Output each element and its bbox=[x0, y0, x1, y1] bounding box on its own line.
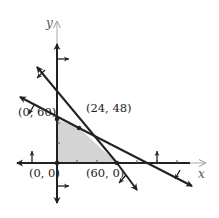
y-axis-label: y bbox=[45, 16, 53, 30]
label-x-intercept: (60, 0) bbox=[86, 166, 124, 180]
label-origin: (0, 0) bbox=[29, 166, 60, 180]
x-axis-label: x bbox=[198, 167, 205, 181]
label-intersection: (24, 48) bbox=[86, 101, 132, 115]
vertex-origin bbox=[55, 161, 60, 166]
vertex-x-intercept bbox=[115, 161, 120, 166]
feasible-region-diagram: y x (0, 60) (24, 48) (0, 0) (60, 0) bbox=[0, 0, 219, 218]
label-y-intercept: (0, 60) bbox=[18, 105, 56, 119]
vertex-intersection bbox=[77, 126, 82, 131]
